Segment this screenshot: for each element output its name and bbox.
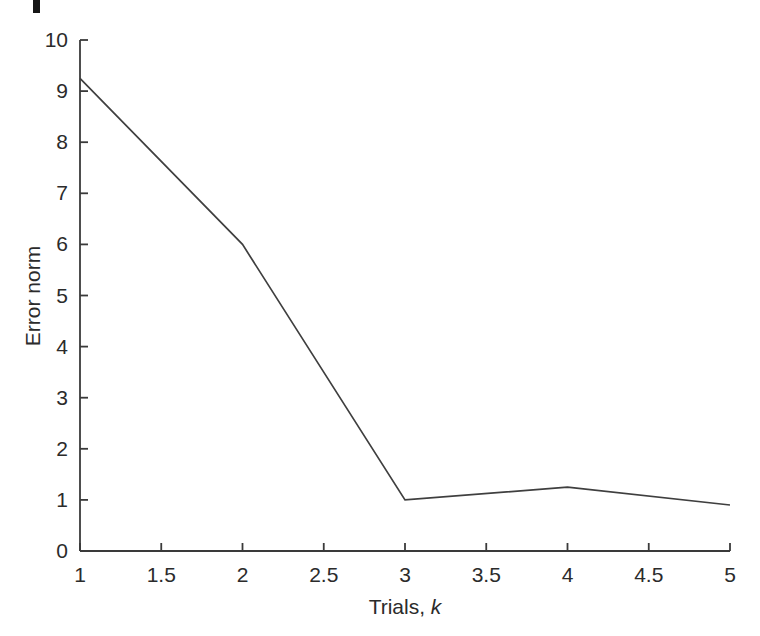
x-tick-label: 4.5 [634,563,663,586]
x-tick-label: 1 [74,563,86,586]
figure: 11.522.533.544.55012345678910 Error norm… [0,0,760,636]
y-tick-label: 7 [56,181,68,204]
y-tick-label: 2 [56,437,68,460]
y-tick-label: 5 [56,284,68,307]
y-tick-label: 1 [56,488,68,511]
x-axis-label-prefix: Trials, [369,595,431,618]
error-norm-line [80,78,730,505]
y-tick-label: 10 [45,28,68,51]
x-tick-label: 1.5 [147,563,176,586]
y-tick-label: 3 [56,386,68,409]
y-tick-label: 8 [56,130,68,153]
y-tick-label: 6 [56,232,68,255]
y-tick-label: 9 [56,79,68,102]
y-tick-label: 4 [56,335,68,358]
y-tick-label: 0 [56,539,68,562]
plot-area: 11.522.533.544.55012345678910 [45,28,736,586]
page-corner-mark [33,0,40,13]
line-chart: 11.522.533.544.55012345678910 Error norm… [0,0,760,636]
x-tick-label: 2.5 [309,563,338,586]
x-tick-label: 5 [724,563,736,586]
x-tick-label: 3 [399,563,411,586]
x-axis-label: Trials, k [369,595,443,618]
x-axis-label-variable: k [431,595,443,618]
y-axis-label: Error norm [21,246,44,346]
x-tick-label: 2 [237,563,249,586]
x-tick-label: 4 [562,563,574,586]
x-tick-label: 3.5 [472,563,501,586]
